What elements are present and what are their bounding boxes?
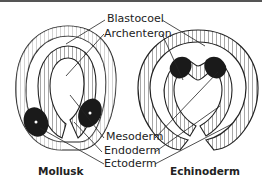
- label-archenteron: Archenteron: [104, 28, 172, 40]
- label-blastocoel: Blastocoel: [107, 13, 164, 25]
- caption-mollusk: Mollusk: [38, 165, 84, 177]
- caption-echinoderm: Echinoderm: [170, 165, 240, 177]
- mollusk-embryo: [16, 26, 116, 150]
- label-mesoderm: Mesoderm: [106, 131, 164, 143]
- label-endoderm: Endoderm: [104, 145, 160, 157]
- label-ectoderm: Ectoderm: [104, 158, 157, 170]
